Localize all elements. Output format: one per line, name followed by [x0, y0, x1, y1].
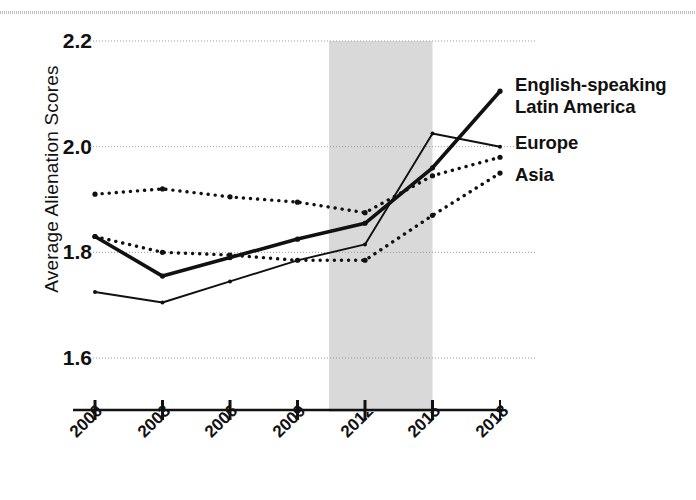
data-point [497, 155, 502, 160]
data-point [93, 290, 97, 294]
data-point [363, 242, 367, 246]
chart-figure: Average Alienation Scores 2.2 2.0 1.8 1.… [0, 0, 696, 500]
series-europe [92, 155, 502, 216]
data-point [92, 234, 97, 239]
series-english-speaking [92, 89, 502, 279]
series-layer [92, 89, 502, 305]
data-point [227, 252, 232, 257]
data-point [430, 165, 435, 170]
data-point [92, 192, 97, 197]
data-point [160, 274, 165, 279]
data-point [497, 170, 502, 175]
data-point [161, 301, 165, 305]
data-point [431, 131, 435, 135]
data-point [362, 210, 367, 215]
data-point [160, 250, 165, 255]
data-point [430, 173, 435, 178]
data-point [160, 186, 165, 191]
data-point [362, 221, 367, 226]
series-asia [92, 170, 502, 262]
data-point [295, 200, 300, 205]
data-point [295, 237, 300, 242]
gridlines [90, 41, 535, 358]
x-axis [73, 400, 504, 420]
data-point [362, 258, 367, 263]
data-point [227, 194, 232, 199]
plot-svg [0, 0, 696, 500]
data-point [498, 145, 502, 149]
data-point [497, 89, 502, 94]
data-point [228, 279, 232, 283]
data-point [430, 213, 435, 218]
data-point [295, 258, 300, 263]
